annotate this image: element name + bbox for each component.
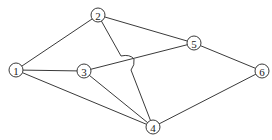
node-label: 1 [13,65,19,77]
node-2: 2 [91,8,105,22]
edge-5-6 [194,43,262,71]
edge-2-5 [98,15,194,43]
node-5: 5 [187,36,201,50]
edge-1-4 [16,70,153,127]
node-label: 6 [259,66,265,78]
graph-diagram: 1 2 3 4 5 6 [0,0,272,140]
node-6: 6 [255,64,269,78]
edge-1-2 [16,15,98,70]
edge-4-6 [153,71,262,127]
node-3: 3 [77,64,91,78]
node-label: 5 [191,38,197,50]
node-4: 4 [146,120,160,134]
edges-layer [16,15,262,127]
edge-3-5 [84,43,194,71]
edge-1-3 [16,70,84,71]
node-label: 4 [150,122,156,134]
node-1: 1 [9,63,23,77]
edge-2-4-with-hop [98,15,153,127]
node-label: 3 [81,66,87,78]
node-label: 2 [95,10,101,22]
